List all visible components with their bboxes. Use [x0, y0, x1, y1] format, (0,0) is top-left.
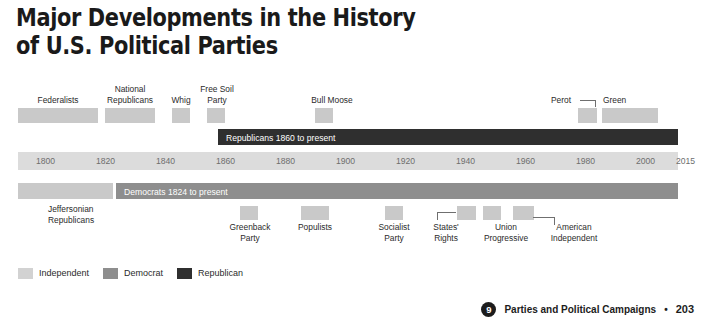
footer-chapter-title: Parties and Political Campaigns [504, 305, 656, 315]
label-free-soil-party: Free Soil Party [196, 84, 238, 105]
footer-separator-dot: • [664, 305, 668, 315]
leader-line-states-rights [437, 212, 456, 213]
axis-tick-1980: 1980 [576, 157, 595, 166]
legend-label-democrat: Democrat [124, 269, 163, 278]
axis-tick-1960: 1960 [516, 157, 535, 166]
axis-tick-1900: 1900 [336, 157, 355, 166]
bar-green [602, 108, 658, 123]
legend-swatch-republican [177, 268, 192, 279]
legend-label-independent: Independent [39, 269, 89, 278]
bar-national-republicans [105, 108, 155, 123]
leader-tick-states-rights [437, 212, 438, 220]
bar-whig [172, 108, 190, 123]
label-populists: Populists [285, 222, 345, 233]
bar-federalists [18, 108, 98, 123]
footer-page-number: 203 [676, 304, 694, 315]
label-jeffersonian-republicans: Jeffersonian Republicans [48, 204, 138, 225]
label-american-independent: American Independent [527, 222, 621, 243]
timeline-chart: Federalists National Republicans Whig Fr… [0, 78, 708, 268]
legend-item-independent: Independent [18, 268, 89, 279]
legend-item-republican: Republican [177, 268, 243, 279]
chapter-number-badge: 9 [481, 302, 496, 317]
page-title: Major Developments in the History of U.S… [16, 4, 416, 60]
axis-tick-1820: 1820 [96, 157, 115, 166]
bar-greenback-party [240, 206, 258, 220]
bar-jeffersonian-republicans [18, 183, 113, 199]
axis-tick-1940: 1940 [456, 157, 475, 166]
legend: Independent Democrat Republican [18, 268, 243, 279]
label-green: Green [603, 95, 653, 106]
leader-tick-perot [595, 100, 596, 107]
leader-line-american-independent [533, 217, 555, 218]
bar-socialist-party [385, 206, 403, 220]
label-greenback-party: Greenback Party [215, 222, 285, 243]
label-federalists: Federalists [18, 95, 98, 106]
axis-tick-1880: 1880 [276, 157, 295, 166]
label-national-republicans: National Republicans [100, 84, 160, 105]
label-whig: Whig [161, 95, 201, 106]
label-bull-moose: Bull Moose [297, 95, 367, 106]
axis-tick-1800: 1800 [36, 157, 55, 166]
bar-free-soil-party [207, 108, 225, 123]
infographic-page: Major Developments in the History of U.S… [0, 0, 708, 326]
legend-swatch-democrat [103, 268, 118, 279]
bar-perot [578, 108, 597, 123]
label-socialist-party: Socialist Party [364, 222, 424, 243]
legend-label-republican: Republican [198, 269, 243, 278]
axis-tick-2015: 2015 [676, 157, 695, 166]
axis-tick-2000: 2000 [636, 157, 655, 166]
bar-american-independent [513, 206, 534, 220]
bar-republicans-label: Republicans 1860 to present [226, 134, 335, 143]
label-perot: Perot [541, 95, 581, 106]
leader-line-perot [580, 100, 596, 101]
bar-populists [301, 206, 329, 220]
bar-union-progressive [483, 206, 501, 220]
legend-item-democrat: Democrat [103, 268, 163, 279]
bar-states-rights [457, 206, 476, 220]
bar-bull-moose [315, 108, 333, 123]
axis-tick-1860: 1860 [216, 157, 235, 166]
page-title-line-1: Major Developments in the History [16, 4, 416, 32]
bar-democrats-label: Democrats 1824 to present [124, 188, 228, 197]
label-states-rights: States' Rights [417, 222, 475, 243]
axis-tick-1920: 1920 [396, 157, 415, 166]
axis-tick-1840: 1840 [156, 157, 175, 166]
legend-swatch-independent [18, 268, 33, 279]
page-title-line-2: of U.S. Political Parties [16, 32, 416, 60]
footer: 9 Parties and Political Campaigns • 203 [481, 302, 694, 317]
